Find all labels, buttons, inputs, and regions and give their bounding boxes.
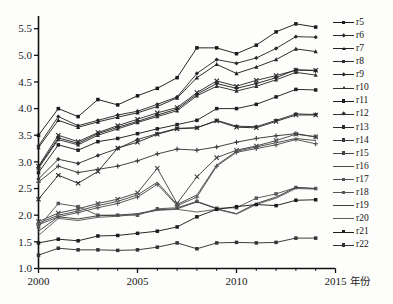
legend-label: r22 [356, 240, 369, 250]
svg-text:1.5: 1.5 [18, 236, 32, 248]
svg-text:4.5: 4.5 [18, 76, 32, 88]
legend-item-r13[interactable]: r13 [333, 121, 393, 134]
legend-swatch-r12-icon [333, 109, 354, 120]
legend-label: r16 [356, 162, 369, 172]
svg-text:3.5: 3.5 [18, 129, 32, 141]
legend-label: r11 [356, 96, 368, 106]
legend-swatch-r6-icon [333, 30, 354, 41]
legend-item-r7[interactable]: r7 [333, 42, 393, 55]
legend-label: r17 [356, 175, 369, 185]
legend-item-r10[interactable]: r10 [333, 81, 393, 94]
legend-item-r14[interactable]: r14 [333, 134, 393, 147]
legend-label: r21 [356, 227, 369, 237]
legend-swatch-r10-icon [333, 83, 354, 94]
legend-item-r5[interactable]: r5 [333, 16, 393, 29]
series-r9 [36, 68, 318, 170]
legend-label: r18 [356, 188, 369, 198]
legend-item-r11[interactable]: r11 [333, 95, 393, 108]
legend-swatch-r21-icon [333, 227, 354, 238]
legend-swatch-r22-icon [333, 240, 354, 251]
legend-item-r12[interactable]: r12 [333, 108, 393, 121]
legend-item-r20[interactable]: r20 [333, 212, 393, 225]
legend-item-r18[interactable]: r18 [333, 186, 393, 199]
series-r11 [37, 88, 318, 175]
legend-label: r19 [356, 201, 369, 211]
legend-label: r9 [356, 70, 364, 80]
legend-item-r8[interactable]: r8 [333, 55, 393, 68]
svg-text:2005: 2005 [127, 275, 150, 287]
series-r6 [36, 35, 318, 149]
legend-swatch-r8-icon [333, 56, 354, 67]
legend-swatch-r17-icon [333, 174, 354, 185]
legend-swatch-r16-icon [333, 161, 354, 172]
svg-text:5.5: 5.5 [18, 22, 32, 34]
legend-label: r15 [356, 149, 369, 159]
svg-text:年份: 年份 [350, 275, 371, 287]
svg-text:2.5: 2.5 [18, 182, 32, 194]
legend-swatch-r14-icon [333, 135, 354, 146]
legend-label: r13 [356, 123, 369, 133]
legend-label: r5 [356, 18, 364, 28]
legend-label: r20 [356, 214, 369, 224]
legend-swatch-r19-icon [333, 200, 354, 211]
legend-item-r21[interactable]: r21 [333, 226, 393, 239]
legend-label: r12 [356, 109, 369, 119]
chart-series [36, 22, 318, 257]
svg-text:2015: 2015 [325, 275, 348, 287]
legend-item-r22[interactable]: r22 [333, 239, 393, 252]
legend-swatch-r9-icon [333, 69, 354, 80]
legend-label: r8 [356, 57, 364, 67]
svg-text:5.0: 5.0 [18, 49, 32, 61]
legend-label: r10 [356, 83, 369, 93]
legend-label: r7 [356, 44, 364, 54]
legend-item-r16[interactable]: r16 [333, 160, 393, 173]
legend-item-r17[interactable]: r17 [333, 173, 393, 186]
legend-swatch-r15-icon [333, 148, 354, 159]
legend-item-r15[interactable]: r15 [333, 147, 393, 160]
legend-swatch-r18-icon [333, 187, 354, 198]
svg-text:4.0: 4.0 [18, 102, 32, 114]
legend-item-r9[interactable]: r9 [333, 68, 393, 81]
svg-text:2000: 2000 [28, 275, 51, 287]
svg-text:2.0: 2.0 [18, 209, 32, 221]
line-chart-figure: 1.01.52.02.53.03.54.04.55.05.52000200520… [0, 0, 393, 304]
legend-item-r19[interactable]: r19 [333, 199, 393, 212]
legend-label: r14 [356, 136, 369, 146]
legend-swatch-r20-icon [333, 213, 354, 224]
series-r14 [36, 131, 318, 184]
svg-text:2010: 2010 [226, 275, 249, 287]
svg-text:1.0: 1.0 [18, 262, 32, 274]
svg-text:3.0: 3.0 [18, 156, 32, 168]
legend-swatch-r7-icon [333, 43, 354, 54]
legend-item-r6[interactable]: r6 [333, 29, 393, 42]
legend-swatch-r5-icon [333, 17, 354, 28]
chart-tick-labels: 1.01.52.02.53.03.54.04.55.05.52000200520… [18, 22, 370, 286]
legend-swatch-r13-icon [333, 122, 354, 133]
legend-swatch-r11-icon [333, 96, 354, 107]
legend-label: r6 [356, 31, 364, 41]
chart-legend: r5r6r7r8r9r10r11r12r13r14r15r16r17r18r19… [333, 16, 393, 252]
